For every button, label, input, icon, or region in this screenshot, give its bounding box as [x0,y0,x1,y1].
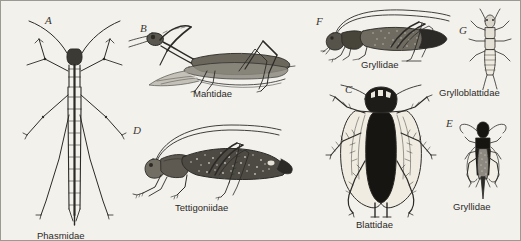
gryllidae-lateral-illustration [321,7,451,63]
figure-caption-phasmidae: Phasmidae [37,231,85,241]
figure-letter-a: A [45,15,52,26]
figure-caption-tettigoniidae: Tettigoniidae [175,203,228,213]
figure-caption-mantidae: Mantidae [193,89,232,99]
figure-caption-gryllidae-lateral: Gryllidae [361,60,399,70]
grylloblattidae-illustration [467,9,517,89]
mantidae-illustration [127,9,299,93]
figure-letter-e: E [446,118,453,129]
figure-letter-f: F [316,16,323,27]
insect-orders-plate: A Phasmidae [0,0,521,241]
phasmidae-illustration [19,9,131,231]
figure-letter-d: D [133,125,141,136]
tettigoniidae-illustration [131,117,297,203]
figure-letter-b: B [140,23,147,34]
blattidae-illustration [325,83,437,219]
figure-caption-grylloblattidae: Grylloblattidae [439,88,500,98]
figure-caption-blattidae: Blattidae [356,220,393,230]
figure-letter-g: G [459,25,467,36]
figure-letter-c: C [345,84,352,95]
gryllidae-dorsal-illustration [455,119,511,201]
figure-caption-gryllidae-dorsal: Gryllidae [453,202,491,212]
